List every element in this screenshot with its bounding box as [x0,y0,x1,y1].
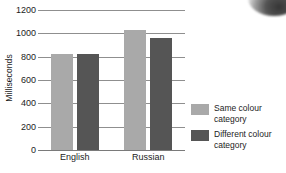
plot-area [38,10,185,150]
x-axis-tick-labels: EnglishRussian [38,152,185,172]
bar-russian-different-colour-category [150,38,172,150]
y-axis-title: Milliseconds [0,0,18,155]
chart-legend: Same colour categoryDifferent colour cat… [191,103,286,155]
gridline [38,10,185,11]
y-axis-tick-label: 200 [21,122,36,132]
y-axis-tick-label: 1200 [16,5,36,15]
y-axis-tick-label: 600 [21,75,36,85]
x-axis-tick-label: Russian [132,152,165,162]
y-axis-tick-label: 0 [31,145,36,155]
y-axis-tick-label: 400 [21,98,36,108]
light-gray-swatch [191,104,209,115]
legend-entry: Different colour category [191,129,286,150]
legend-entry: Same colour category [191,103,286,124]
bar-english-different-colour-category [77,54,99,150]
bar-english-same-colour-category [51,54,73,150]
dark-gray-swatch [191,130,209,141]
y-axis-title-label: Milliseconds [4,54,14,102]
gridline [38,33,185,34]
gridline [38,150,185,151]
legend-entry-label: Different colour category [214,129,286,150]
bar-russian-same-colour-category [124,30,146,150]
y-axis-tick-label: 800 [21,52,36,62]
y-axis-tick-label: 1000 [16,28,36,38]
legend-entry-label: Same colour category [214,103,286,124]
y-axis-tick-labels: 020040060080010001200 [18,0,38,155]
bar-chart-figure: Milliseconds 020040060080010001200 Engli… [0,0,286,173]
scan-shadow-artifact [248,0,286,16]
x-axis-tick-label: English [60,152,90,162]
